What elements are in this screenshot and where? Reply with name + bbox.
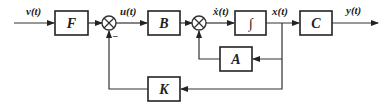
block-F-label: F bbox=[66, 16, 77, 31]
block-K: K bbox=[148, 77, 180, 101]
block-C-label: C bbox=[311, 16, 321, 31]
block-B-label: B bbox=[158, 16, 168, 31]
block-A-label: A bbox=[230, 52, 240, 67]
block-integrator: ∫ bbox=[235, 11, 266, 35]
A-to-sum2-path bbox=[199, 31, 220, 59]
block-C: C bbox=[300, 11, 332, 35]
summing-junction-2 bbox=[192, 16, 206, 30]
block-K-label: K bbox=[158, 82, 170, 97]
block-B: B bbox=[148, 11, 180, 35]
signal-y-label: y(t) bbox=[344, 4, 361, 17]
block-A: A bbox=[220, 47, 252, 71]
signal-u-label: u(t) bbox=[120, 5, 137, 18]
block-diagram: v(t) F − u(t) B ẋ(t) ∫ x(t) C bbox=[0, 0, 388, 112]
block-F: F bbox=[55, 11, 88, 35]
signal-x-label: x(t) bbox=[271, 5, 288, 18]
signal-v-label: v(t) bbox=[26, 5, 41, 18]
signal-xdot-label: ẋ(t) bbox=[212, 5, 229, 18]
sum1-minus-sign: − bbox=[112, 31, 118, 42]
summing-junction-1 bbox=[102, 16, 116, 30]
